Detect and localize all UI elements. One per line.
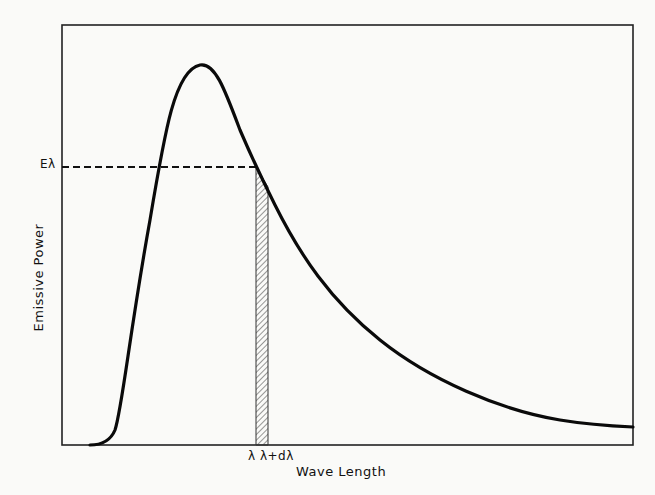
hatched-strip	[256, 167, 268, 445]
y-axis-label: Emissive Power	[31, 208, 46, 348]
e-lambda-label: Eλ	[40, 157, 56, 171]
emissive-power-curve	[90, 65, 633, 445]
x-axis-label: Wave Length	[296, 464, 386, 479]
lambda-tick-labels: λ λ+dλ	[248, 449, 294, 463]
plot-canvas	[0, 0, 655, 495]
